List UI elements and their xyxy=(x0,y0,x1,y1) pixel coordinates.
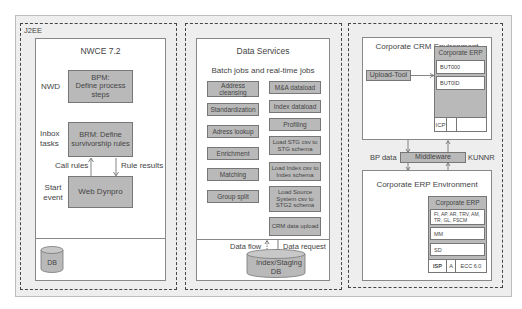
erp-row-mm: MM xyxy=(430,227,485,240)
erp-version: ECC 6.0 xyxy=(456,260,486,272)
erp-isp: ISP xyxy=(429,260,447,272)
kunnr-label: KUNNR xyxy=(468,153,495,162)
erp-erp-title: Corporate ERP xyxy=(428,199,487,206)
bp-data-label: BP data xyxy=(370,153,397,162)
middleware-box: Middleware xyxy=(400,152,466,163)
erp-a: A xyxy=(447,260,456,272)
erp-bottom-bar: ISP A ECC 6.0 xyxy=(428,259,487,273)
erp-row-sd: SD xyxy=(430,243,485,256)
erp-row-modules: FI, AP, AR, TRV, AM, TR, GL, FSCM xyxy=(430,209,485,225)
erp-environment-title: Corporate ERP Environment xyxy=(362,180,492,189)
